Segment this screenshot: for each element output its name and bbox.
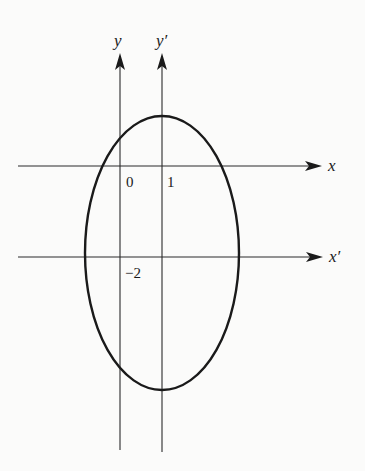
x-axis: x	[18, 156, 336, 175]
ellipse-translation-diagram: x x′ y y′ 0 1 −2	[0, 0, 365, 471]
x-prime-axis-label: x′	[328, 247, 341, 266]
x-axis-label: x	[327, 156, 336, 175]
tick-label-one: 1	[167, 174, 175, 190]
y-axis: y	[112, 31, 125, 450]
tick-label-minus-two: −2	[125, 265, 141, 281]
y-prime-axis-label: y′	[154, 31, 168, 50]
origin-label: 0	[126, 174, 134, 190]
y-axis-label: y	[112, 31, 122, 50]
x-prime-axis: x′	[18, 247, 341, 266]
